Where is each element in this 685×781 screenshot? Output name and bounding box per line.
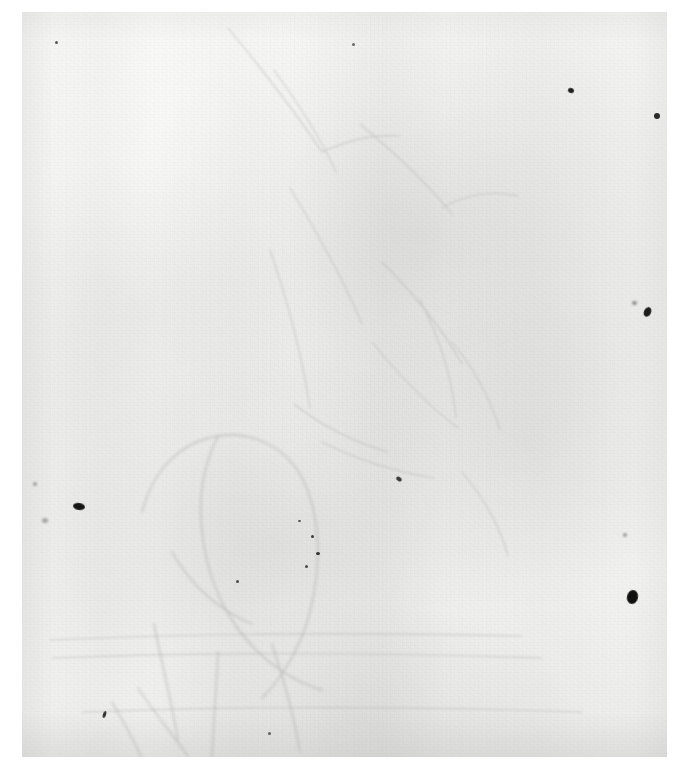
crease-line-13 (50, 634, 522, 640)
figure-contour-2 (201, 436, 236, 626)
crease-line-8 (372, 342, 458, 428)
figure-contour-4 (172, 552, 252, 624)
crease-line-14 (52, 654, 542, 659)
figure-contour-8 (138, 688, 188, 756)
crease-line-3 (360, 124, 452, 214)
figure-contour-3 (236, 626, 322, 690)
figure-contour-1 (262, 482, 318, 698)
crease-line-0 (228, 28, 322, 152)
figure-contour-7 (272, 644, 300, 752)
crease-line-11 (452, 342, 500, 430)
pencil-traces-layer (22, 12, 667, 757)
crease-lines-group (50, 28, 582, 712)
scanned-paper-sheet (22, 12, 667, 757)
crease-line-16 (462, 472, 508, 556)
crease-line-1 (322, 136, 400, 152)
crease-line-10 (294, 404, 388, 452)
figure-contour-6 (212, 652, 218, 757)
crease-line-5 (290, 188, 362, 324)
crease-line-2 (274, 70, 336, 172)
figure-contour-0 (142, 435, 304, 512)
crease-line-9 (270, 250, 310, 408)
crease-line-15 (82, 708, 582, 713)
crease-line-4 (442, 193, 518, 208)
crease-line-6 (382, 262, 462, 364)
figure-contour-5 (154, 624, 178, 740)
screenshot-canvas: A near-blank, slightly discolored sheet … (0, 0, 685, 781)
crease-line-12 (322, 442, 434, 478)
